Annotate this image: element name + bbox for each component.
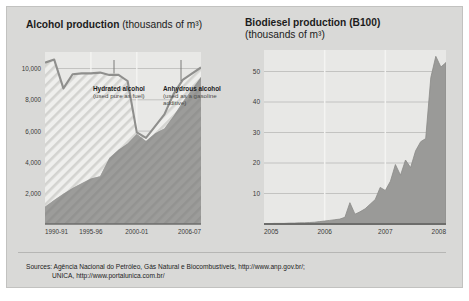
annotation-hydrated-sub: (used pure as fuel)	[93, 92, 145, 99]
sources-line-1: Sources: Agência Nacional do Petróleo, G…	[26, 263, 305, 270]
svg-text:1995-96: 1995-96	[79, 228, 103, 235]
svg-text:2,000: 2,000	[25, 190, 41, 197]
annotation-anhydrous-sub: (used as a gasoline additive)	[163, 92, 217, 106]
annotation-hydrated-heading: Hydrated alcohol	[93, 85, 159, 92]
annotation-anhydrous-alcohol: Anhydrous alcohol (used as a gasoline ad…	[163, 85, 223, 107]
svg-text:6,000: 6,000	[25, 128, 41, 135]
alcohol-production-chart: 2,000 4,000 6,000 8,000 10,000 1990-91 1…	[20, 40, 206, 236]
svg-text:8,000: 8,000	[25, 96, 41, 103]
left-y-axis-labels: 2,000 4,000 6,000 8,000 10,000	[22, 65, 42, 197]
svg-text:10,000: 10,000	[22, 65, 42, 72]
alcohol-chart-svg: 2,000 4,000 6,000 8,000 10,000 1990-91 1…	[20, 40, 206, 236]
svg-text:10: 10	[253, 190, 261, 197]
annotation-hydrated-alcohol: Hydrated alcohol (used pure as fuel)	[93, 85, 159, 99]
svg-text:2000-01: 2000-01	[125, 228, 149, 235]
right-chart-title-units: (thousands of m³)	[245, 29, 325, 40]
infographic-page: Sciences Po / CERI et Atelier de cartogr…	[0, 0, 469, 301]
svg-text:20: 20	[253, 159, 261, 166]
svg-text:2007: 2007	[378, 228, 393, 235]
svg-text:50: 50	[253, 68, 261, 75]
right-y-axis-labels: 10 20 30 40 50	[253, 68, 261, 197]
svg-text:2006: 2006	[317, 228, 332, 235]
sources-line-2: UNICA, http://www.portalunica.com.br/	[26, 271, 446, 280]
biodiesel-chart-svg: 10 20 30 40 50 2005 2006 2007 2008	[240, 40, 454, 236]
footer-divider	[18, 252, 446, 253]
left-x-axis-labels: 1990-91 1995-96 2000-01 2006-07	[45, 228, 201, 235]
svg-text:4,000: 4,000	[25, 159, 41, 166]
svg-text:1990-91: 1990-91	[45, 228, 69, 235]
sources-note: Sources: Agência Nacional do Petróleo, G…	[26, 262, 446, 280]
left-chart-title: Alcohol production (thousands of m³)	[26, 19, 202, 31]
right-x-axis-labels: 2005 2006 2007 2008	[264, 228, 446, 235]
annotation-anhydrous-heading: Anhydrous alcohol	[163, 85, 223, 92]
right-chart-title-bold: Biodiesel production (B100)	[245, 17, 380, 28]
right-chart-title: Biodiesel production (B100) (thousands o…	[245, 17, 380, 40]
biodiesel-production-chart: 10 20 30 40 50 2005 2006 2007 2008	[240, 40, 454, 236]
svg-text:2008: 2008	[432, 228, 447, 235]
svg-text:2006-07: 2006-07	[178, 228, 202, 235]
svg-text:40: 40	[253, 98, 261, 105]
svg-text:2005: 2005	[264, 228, 279, 235]
svg-text:30: 30	[253, 129, 261, 136]
left-chart-title-bold: Alcohol production	[26, 19, 119, 30]
left-chart-title-units: (thousands of m³)	[119, 19, 202, 30]
